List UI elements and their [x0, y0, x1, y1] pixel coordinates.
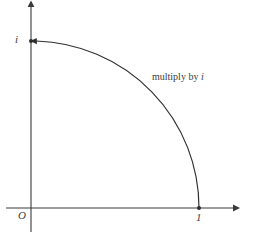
annotation-prefix-text: multiply by [152, 71, 201, 82]
point-marker-i [29, 39, 33, 43]
y-axis-tick-label-i: i [15, 34, 18, 45]
multiply-by-i-annotation: multiply by i [152, 72, 204, 82]
annotation-variable-text: i [201, 71, 204, 82]
diagram-canvas [0, 0, 255, 238]
point-marker-one [197, 206, 201, 210]
rotation-arc [37, 41, 200, 208]
origin-label: O [18, 210, 26, 221]
x-axis-arrowhead-icon [233, 205, 240, 212]
math-diagram: O 1 i multiply by i [0, 0, 255, 238]
x-axis-tick-label-one: 1 [196, 212, 202, 223]
y-axis-arrowhead-icon [28, 1, 35, 8]
